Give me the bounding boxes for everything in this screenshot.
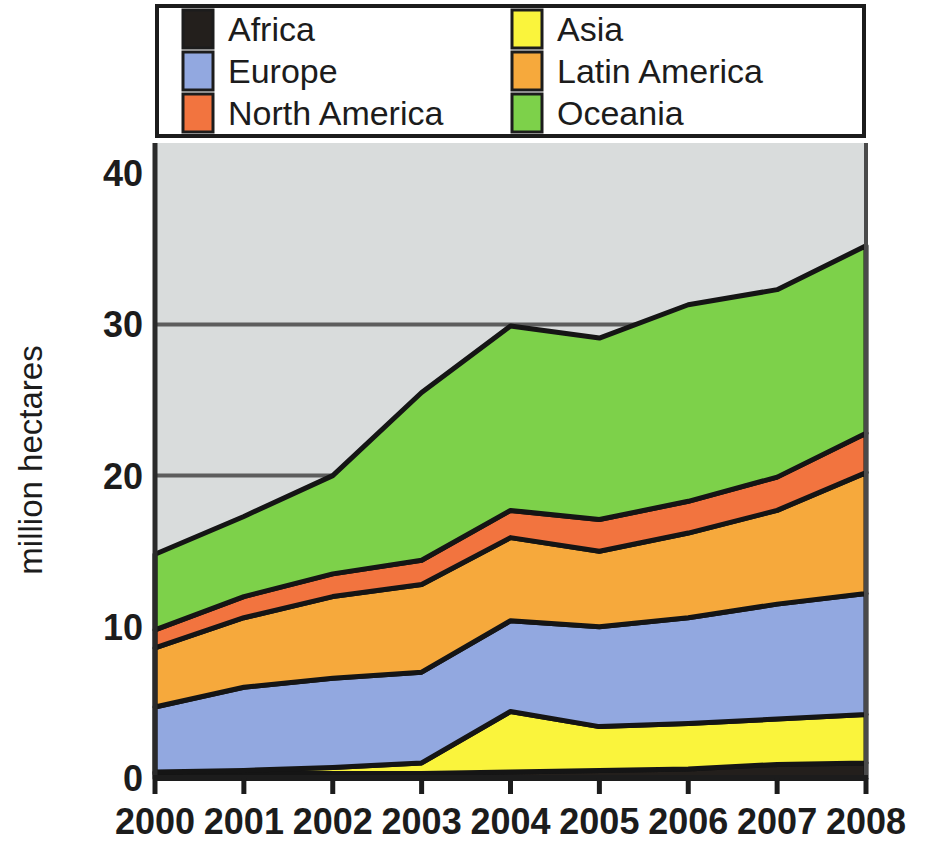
legend-label: Asia bbox=[557, 10, 623, 48]
legend-swatch bbox=[183, 52, 213, 90]
chart-container: 010203040 200020012002200320042005200620… bbox=[0, 0, 937, 855]
y-tick-label: 40 bbox=[103, 153, 143, 194]
x-tick-label: 2003 bbox=[382, 801, 462, 842]
y-tick-label: 0 bbox=[123, 758, 143, 799]
x-tick-label: 2001 bbox=[204, 801, 284, 842]
legend-swatch bbox=[512, 52, 542, 90]
x-tick-label: 2000 bbox=[115, 801, 195, 842]
chart-legend: AfricaAsiaEuropeLatin AmericaNorth Ameri… bbox=[157, 6, 864, 136]
x-tick-label: 2004 bbox=[470, 801, 550, 842]
y-tick-label: 20 bbox=[103, 456, 143, 497]
legend-swatch bbox=[183, 94, 213, 132]
legend-label: Europe bbox=[228, 52, 338, 90]
legend-label: Africa bbox=[228, 10, 315, 48]
legend-swatch bbox=[183, 10, 213, 48]
legend-label: Oceania bbox=[557, 94, 684, 132]
x-tick-label: 2005 bbox=[559, 801, 639, 842]
y-tick-label: 10 bbox=[103, 607, 143, 648]
y-tick-label: 30 bbox=[103, 304, 143, 345]
legend-swatch bbox=[512, 10, 542, 48]
legend-label: Latin America bbox=[557, 52, 763, 90]
x-tick-label: 2007 bbox=[737, 801, 817, 842]
x-tick-label: 2008 bbox=[826, 801, 906, 842]
y-axis-title: million hectares bbox=[12, 345, 49, 574]
legend-label: North America bbox=[228, 94, 443, 132]
legend-swatch bbox=[512, 94, 542, 132]
x-tick-label: 2006 bbox=[648, 801, 728, 842]
y-axis-tick-labels: 010203040 bbox=[103, 153, 143, 799]
x-tick-label: 2002 bbox=[293, 801, 373, 842]
stacked-area-chart: 010203040 200020012002200320042005200620… bbox=[0, 0, 937, 855]
x-axis-tick-labels: 200020012002200320042005200620072008 bbox=[115, 801, 906, 842]
